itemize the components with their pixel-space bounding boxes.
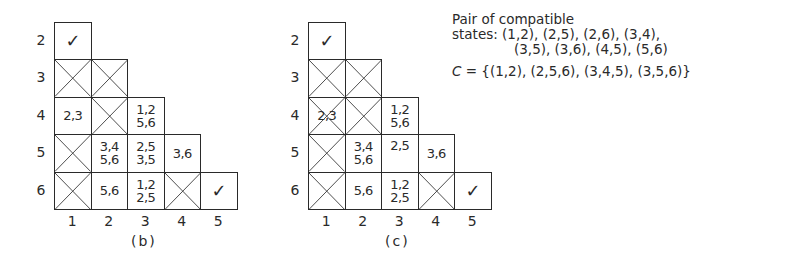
chart-cell: 3,45,6 bbox=[91, 134, 129, 172]
implied-pairs: 5,6 bbox=[346, 173, 382, 209]
implied-pair: 5,6 bbox=[136, 116, 155, 129]
chart-cell: ✓ bbox=[200, 172, 238, 210]
chart-cell: ✓ bbox=[454, 172, 492, 210]
implied-pairs: 2,53,5 bbox=[128, 135, 164, 171]
chart-cell: 1,25,6 bbox=[381, 97, 419, 135]
implied-pairs: 3,6 bbox=[165, 135, 201, 171]
implied-pair: 1,2 bbox=[390, 178, 409, 191]
chart-cell: 2,5 bbox=[381, 134, 419, 172]
chart-cell bbox=[308, 172, 346, 210]
maximal-compatibles-value: = {(1,2), (2,5,6), (3,4,5), (3,5,6)} bbox=[461, 63, 690, 79]
chart-cell: 1,25,6 bbox=[127, 97, 165, 135]
implied-pair: 5,6 bbox=[390, 116, 409, 129]
row-label: 2 bbox=[288, 32, 302, 48]
implied-pairs: 1,25,6 bbox=[382, 98, 418, 134]
column-label: 2 bbox=[356, 213, 370, 229]
implied-pair: ✓ bbox=[319, 32, 334, 50]
implied-pairs: 5,6 bbox=[92, 173, 128, 209]
implied-pair: 2,3 bbox=[317, 109, 336, 122]
implied-pair: 2,5 bbox=[136, 191, 155, 204]
row-label: 4 bbox=[34, 107, 48, 123]
compatible-pairs-line-2: (3,5), (3,6), (4,5), (5,6) bbox=[452, 42, 691, 57]
chart-cell bbox=[345, 59, 383, 97]
chart-cell: 5,6 bbox=[345, 172, 383, 210]
notes-heading: Pair of compatible bbox=[452, 12, 691, 27]
column-label: 4 bbox=[429, 213, 443, 229]
implied-pair: 2,3 bbox=[63, 109, 82, 122]
chart-cell bbox=[308, 134, 346, 172]
chart-cell bbox=[54, 59, 92, 97]
implied-pairs: 3,6 bbox=[419, 135, 455, 171]
implied-pairs: 2,5 bbox=[382, 135, 418, 171]
compatible-check-icon: ✓ bbox=[309, 23, 345, 59]
row-label: 2 bbox=[34, 32, 48, 48]
compatible-check-icon: ✓ bbox=[201, 173, 237, 209]
implied-pair: 1,2 bbox=[136, 178, 155, 191]
chart-cell: 5,6 bbox=[91, 172, 129, 210]
column-label: 1 bbox=[65, 213, 79, 229]
chart-cell: ✓ bbox=[54, 22, 92, 60]
maximal-compatibles: C = {(1,2), (2,5,6), (3,4,5), (3,5,6)} bbox=[452, 64, 691, 79]
chart-cell: 2,3 bbox=[308, 97, 346, 135]
compatible-check-icon: ✓ bbox=[55, 23, 91, 59]
column-label: 3 bbox=[392, 213, 406, 229]
chart-cell: 3,45,6 bbox=[345, 134, 383, 172]
implied-pairs: 3,45,6 bbox=[92, 135, 128, 171]
figure-caption: (c) bbox=[385, 233, 410, 249]
implied-pair: 3,6 bbox=[427, 147, 446, 160]
implied-pair: 5,6 bbox=[100, 184, 119, 197]
compatible-states-notes: Pair of compatible states: (1,2), (2,5),… bbox=[452, 12, 691, 79]
implied-pair: 2,5 bbox=[390, 139, 409, 152]
implied-pairs: 1,25,6 bbox=[128, 98, 164, 134]
compatible-check-icon: ✓ bbox=[455, 173, 491, 209]
row-label: 6 bbox=[34, 182, 48, 198]
compatible-pairs-line-1: states: (1,2), (2,5), (2,6), (3,4), bbox=[452, 27, 691, 42]
row-label: 3 bbox=[288, 69, 302, 85]
implied-pair: 3,5 bbox=[136, 153, 155, 166]
chart-cell bbox=[54, 172, 92, 210]
implied-pair: ✓ bbox=[465, 182, 480, 200]
implied-pairs: 1,22,5 bbox=[128, 173, 164, 209]
figure-caption: (b) bbox=[131, 233, 157, 249]
chart-cell bbox=[345, 97, 383, 135]
chart-cell: 2,3 bbox=[54, 97, 92, 135]
column-label: 2 bbox=[102, 213, 116, 229]
chart-cell bbox=[418, 172, 456, 210]
implied-pairs: 2,3 bbox=[309, 98, 345, 134]
row-label: 3 bbox=[34, 69, 48, 85]
column-label: 1 bbox=[319, 213, 333, 229]
row-label: 5 bbox=[288, 144, 302, 160]
chart-cell: 2,53,5 bbox=[127, 134, 165, 172]
column-label: 3 bbox=[138, 213, 152, 229]
implied-pair: ✓ bbox=[65, 32, 80, 50]
implied-pair: 5,6 bbox=[354, 184, 373, 197]
implied-pairs: 2,3 bbox=[55, 98, 91, 134]
chart-cell: 3,6 bbox=[164, 134, 202, 172]
chart-cell: 3,6 bbox=[418, 134, 456, 172]
row-label: 4 bbox=[288, 107, 302, 123]
implied-pair: 3,6 bbox=[173, 147, 192, 160]
column-label: 5 bbox=[465, 213, 479, 229]
implied-pair: 5,6 bbox=[354, 153, 373, 166]
row-label: 5 bbox=[34, 144, 48, 160]
implied-pairs: 1,22,5 bbox=[382, 173, 418, 209]
implied-pair: ✓ bbox=[211, 182, 226, 200]
implied-pair: 5,6 bbox=[100, 153, 119, 166]
column-label: 4 bbox=[175, 213, 189, 229]
chart-cell: 1,22,5 bbox=[381, 172, 419, 210]
chart-cell bbox=[91, 59, 129, 97]
column-label: 5 bbox=[211, 213, 225, 229]
chart-cell bbox=[54, 134, 92, 172]
chart-cell bbox=[308, 59, 346, 97]
chart-cell bbox=[164, 172, 202, 210]
row-label: 6 bbox=[288, 182, 302, 198]
chart-cell: 1,22,5 bbox=[127, 172, 165, 210]
implied-pairs: 3,45,6 bbox=[346, 135, 382, 171]
chart-cell: ✓ bbox=[308, 22, 346, 60]
implied-pair: 2,5 bbox=[390, 191, 409, 204]
chart-cell bbox=[91, 97, 129, 135]
